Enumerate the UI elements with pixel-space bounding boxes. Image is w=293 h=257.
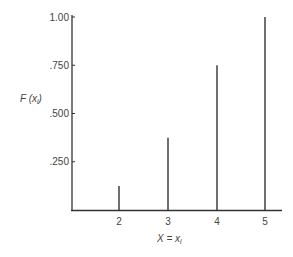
- cdf-chart: .250.500.7501.00 2345 F (xi) X = xi: [0, 0, 293, 257]
- stems: [119, 17, 265, 210]
- x-tick-label: 3: [165, 216, 171, 227]
- x-ticks: 2345: [116, 216, 268, 227]
- x-tick-label: 2: [116, 216, 122, 227]
- x-axis-label: X = xi: [156, 233, 182, 245]
- y-tick-label: .250: [50, 156, 70, 167]
- x-tick-label: 4: [214, 216, 220, 227]
- x-tick-label: 5: [262, 216, 268, 227]
- y-ticks: .250.500.7501.00: [50, 12, 75, 168]
- y-tick-label: .750: [50, 60, 70, 71]
- y-tick-label: .500: [50, 108, 70, 119]
- y-tick-label: 1.00: [50, 12, 70, 23]
- y-axis-label: F (xi): [20, 93, 42, 105]
